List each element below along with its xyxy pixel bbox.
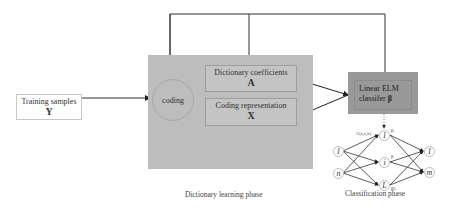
input-node-1: 1 (333, 146, 344, 157)
dictionary-phase-caption: Dictionary learning phase (185, 190, 262, 199)
input-node-n: n (333, 168, 344, 179)
classification-phase-caption: Classification phase (345, 189, 405, 198)
training-samples-symbol: Y (17, 107, 81, 117)
elm-label-line2: classifer (359, 94, 386, 103)
dictionary-coefficients-symbol: A (206, 78, 296, 88)
elm-label-line1: Linear ELM (359, 84, 407, 94)
dictionary-coefficients-box: Dictionary coefficients A (205, 65, 297, 92)
training-samples-box: Training samples Y (16, 94, 82, 120)
coding-label: coding (162, 96, 184, 105)
output-node-m: m (424, 167, 435, 178)
coding-representation-box: Coding representation X (205, 98, 297, 126)
elm-beta-symbol: β (388, 94, 392, 103)
output-node-1: 1 (424, 146, 435, 157)
hidden-node-1: 1 (379, 130, 390, 141)
beta-label-i: βᵢ (391, 154, 394, 159)
hidden-node-i: i (379, 157, 390, 168)
coding-representation-symbol: X (206, 111, 296, 121)
elm-classifier-box: Linear ELM classifer β (354, 80, 412, 110)
beta-label-1: β₁ (391, 128, 395, 133)
coding-node: coding (152, 79, 194, 121)
activation-label: G(a,x,b) (356, 131, 371, 136)
